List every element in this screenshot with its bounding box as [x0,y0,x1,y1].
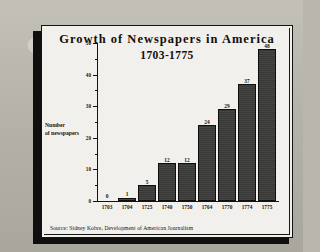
bar-1775[interactable]: 48 [258,49,276,201]
bar-value-label: 12 [164,157,169,163]
y-tick-label-0: 0 [88,198,91,204]
y-tick-label-30: 30 [86,103,91,109]
x-axis-line [97,201,279,202]
bar-value-label: 37 [244,78,249,84]
bar-value-label: 24 [204,119,209,125]
bar-slot: 01703 [97,43,117,201]
bar-1770[interactable]: 29 [218,109,236,201]
bar-1704[interactable]: 1 [118,198,136,201]
bar-slot: 241764 [197,43,217,201]
plot-area: 01020304050 0170311704517251217401217502… [97,43,277,201]
bar-1725[interactable]: 5 [138,185,156,201]
bar-value-label: 12 [184,157,189,163]
y-tick-label-10: 10 [86,166,91,172]
x-tick-label-1703: 1703 [102,204,113,210]
chart-figure: Growth of Newspapers in America 1703-177… [41,25,293,238]
bar-slot: 481775 [257,43,277,201]
bar-slot: 121740 [157,43,177,201]
x-tick-label-1725: 1725 [142,204,153,210]
bar-value-label: 5 [146,179,149,185]
bar-slot: 51725 [137,43,157,201]
y-tick-0 [93,201,97,202]
bar-value-label: 48 [264,43,269,49]
bar-slot: 11704 [117,43,137,201]
bar-slot: 371774 [237,43,257,201]
x-tick-label-1774: 1774 [242,204,253,210]
bar-slot: 291770 [217,43,237,201]
bar-1703[interactable]: 0 [98,200,116,201]
x-tick-label-1775: 1775 [262,204,273,210]
bar-1774[interactable]: 37 [238,84,256,201]
y-axis-label-line1: Number [45,121,93,129]
x-tick-label-1704: 1704 [122,204,133,210]
x-tick-label-1764: 1764 [202,204,213,210]
x-tick-label-1740: 1740 [162,204,173,210]
x-tick-label-1770: 1770 [222,204,233,210]
source-citation: Source: Sidney Kobre, Development of Ame… [50,225,193,231]
x-tick-label-1750: 1750 [182,204,193,210]
y-tick-label-40: 40 [86,72,91,78]
bar-1750[interactable]: 12 [178,163,196,201]
bar-value-label: 29 [224,103,229,109]
y-tick-label-50: 50 [86,40,91,46]
bar-1764[interactable]: 24 [198,125,216,201]
bar-slot: 121750 [177,43,197,201]
bar-value-label: 1 [126,191,129,197]
bar-value-label: 0 [106,193,109,199]
bar-1740[interactable]: 12 [158,163,176,201]
y-tick-label-20: 20 [86,135,91,141]
